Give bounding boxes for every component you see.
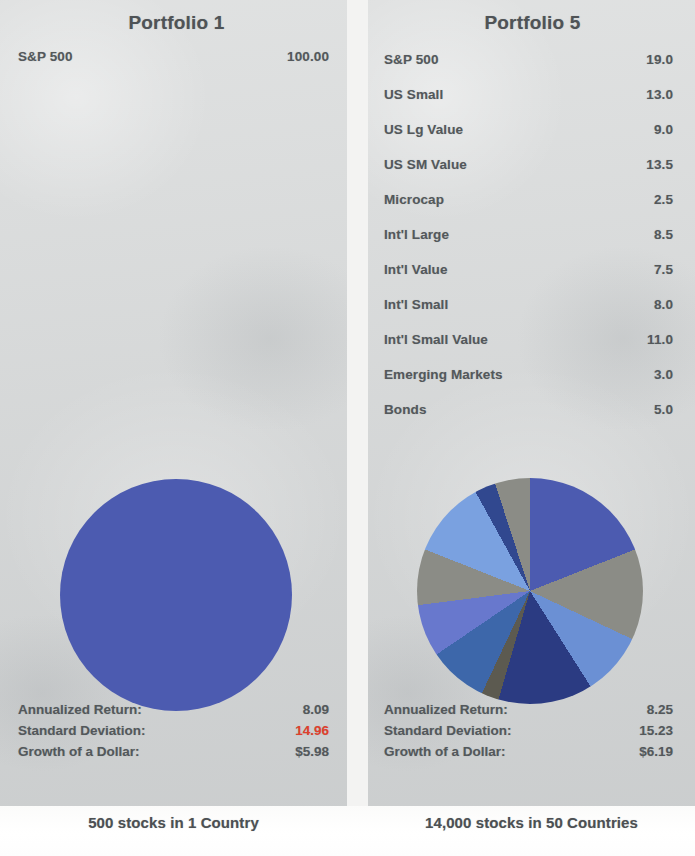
stat-value: $5.98 bbox=[295, 741, 329, 762]
allocation-row: Microcap2.5 bbox=[384, 182, 673, 217]
allocation-value: 100.00 bbox=[287, 42, 329, 72]
allocation-name: US Small bbox=[384, 77, 443, 112]
stat-label: Growth of a Dollar: bbox=[18, 741, 140, 762]
stat-value: 14.96 bbox=[295, 720, 329, 741]
allocation-value: 13.5 bbox=[646, 147, 673, 182]
allocation-name: S&P 500 bbox=[18, 42, 73, 72]
stat-row: Growth of a Dollar:$5.98 bbox=[18, 741, 329, 762]
allocation-value: 7.5 bbox=[654, 252, 673, 287]
allocation-value: 5.0 bbox=[654, 392, 673, 427]
allocation-name: Emerging Markets bbox=[384, 357, 503, 392]
allocation-list-right: S&P 50019.0US Small13.0US Lg Value9.0US … bbox=[368, 42, 695, 427]
pie-chart-left bbox=[60, 479, 292, 711]
stat-label: Growth of a Dollar: bbox=[384, 741, 506, 762]
stat-row: Growth of a Dollar:$6.19 bbox=[384, 741, 673, 762]
stat-label: Standard Deviation: bbox=[18, 720, 146, 741]
caption-left: 500 stocks in 1 Country bbox=[0, 814, 347, 831]
allocation-row: Emerging Markets3.0 bbox=[384, 357, 673, 392]
allocation-name: Int'l Small Value bbox=[384, 322, 488, 357]
allocation-name: Int'l Small bbox=[384, 287, 448, 322]
stat-value: 15.23 bbox=[639, 720, 673, 741]
allocation-value: 13.0 bbox=[646, 77, 673, 112]
caption-right: 14,000 stocks in 50 Countries bbox=[368, 814, 695, 831]
allocation-list-left: S&P 500100.00 bbox=[0, 42, 347, 72]
allocation-row: Int'l Small Value11.0 bbox=[384, 322, 673, 357]
stat-row: Annualized Return:8.09 bbox=[18, 699, 329, 720]
allocation-row: Int'l Large8.5 bbox=[384, 217, 673, 252]
allocation-row: Int'l Small8.0 bbox=[384, 287, 673, 322]
stat-label: Annualized Return: bbox=[18, 699, 142, 720]
stat-row: Standard Deviation:15.23 bbox=[384, 720, 673, 741]
allocation-row: Bonds5.0 bbox=[384, 392, 673, 427]
allocation-name: US Lg Value bbox=[384, 112, 463, 147]
stats-block-left: Annualized Return:8.09Standard Deviation… bbox=[0, 699, 347, 762]
pie-chart-left-container bbox=[0, 479, 347, 711]
stat-row: Standard Deviation:14.96 bbox=[18, 720, 329, 741]
allocation-value: 8.5 bbox=[654, 217, 673, 252]
stat-value: 8.25 bbox=[647, 699, 673, 720]
page-title-left: Portfolio 1 bbox=[0, 0, 347, 34]
portfolio-5-panel: Portfolio 5 S&P 50019.0US Small13.0US Lg… bbox=[368, 0, 695, 806]
allocation-row: Int'l Value7.5 bbox=[384, 252, 673, 287]
allocation-name: S&P 500 bbox=[384, 42, 439, 77]
allocation-name: Int'l Value bbox=[384, 252, 448, 287]
allocation-value: 9.0 bbox=[654, 112, 673, 147]
allocation-row: S&P 50019.0 bbox=[384, 42, 673, 77]
allocation-value: 11.0 bbox=[647, 322, 673, 357]
allocation-value: 2.5 bbox=[654, 182, 673, 217]
comparison-figure: Portfolio 1 S&P 500100.00 Annualized Ret… bbox=[0, 0, 695, 856]
allocation-name: Microcap bbox=[384, 182, 444, 217]
allocation-name: Int'l Large bbox=[384, 217, 449, 252]
stat-value: $6.19 bbox=[639, 741, 673, 762]
stat-value: 8.09 bbox=[303, 699, 329, 720]
pie-chart-right bbox=[417, 478, 643, 704]
allocation-value: 19.0 bbox=[646, 42, 673, 77]
allocation-row: US Small13.0 bbox=[384, 77, 673, 112]
portfolio-1-panel: Portfolio 1 S&P 500100.00 Annualized Ret… bbox=[0, 0, 347, 806]
panel-divider bbox=[347, 0, 368, 806]
stat-label: Standard Deviation: bbox=[384, 720, 512, 741]
allocation-row: US Lg Value9.0 bbox=[384, 112, 673, 147]
page-title-right: Portfolio 5 bbox=[368, 0, 695, 34]
stat-label: Annualized Return: bbox=[384, 699, 508, 720]
allocation-value: 3.0 bbox=[654, 357, 673, 392]
allocation-name: Bonds bbox=[384, 392, 427, 427]
stats-block-right: Annualized Return:8.25Standard Deviation… bbox=[368, 699, 695, 762]
allocation-value: 8.0 bbox=[654, 287, 673, 322]
pie-chart-right-container bbox=[368, 478, 695, 704]
allocation-row: S&P 500100.00 bbox=[18, 42, 329, 72]
stat-row: Annualized Return:8.25 bbox=[384, 699, 673, 720]
allocation-name: US SM Value bbox=[384, 147, 467, 182]
allocation-row: US SM Value13.5 bbox=[384, 147, 673, 182]
